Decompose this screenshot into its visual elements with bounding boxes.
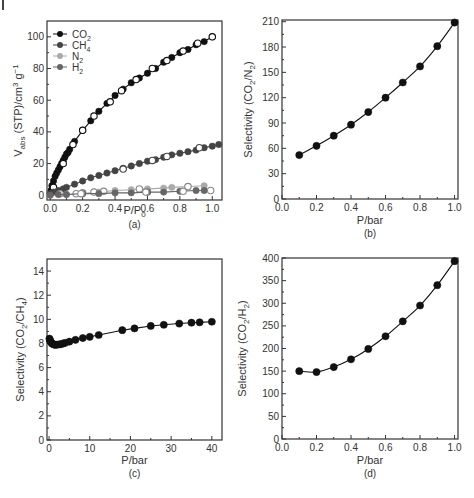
data-point (143, 189, 149, 195)
data-point (79, 334, 86, 341)
legend-label-main: N (72, 51, 79, 62)
data-point (128, 190, 134, 196)
y-axis-label: Selectivity (CO2/H2) (236, 300, 251, 396)
data-point (107, 99, 113, 105)
data-point (47, 192, 53, 198)
y-tick-label: 120 (262, 92, 279, 103)
data-point (296, 368, 303, 375)
series-line (299, 23, 454, 156)
data-point (193, 187, 199, 193)
data-point (95, 331, 102, 338)
y-tick-label: 0 (38, 190, 44, 201)
plot-frame (47, 259, 222, 440)
data-point (164, 153, 170, 159)
data-point (86, 333, 93, 340)
data-point (434, 43, 441, 50)
data-point (169, 184, 175, 190)
x-tick-label: 0.8 (173, 203, 187, 214)
y-axis-label-part: /H (236, 308, 248, 319)
y-tick-label: 150 (262, 366, 279, 377)
data-point (365, 108, 372, 115)
y-axis-label-part: /N (242, 69, 254, 80)
y-axis-label-part: g (12, 73, 24, 82)
data-point (451, 19, 458, 26)
x-tick-label: 0.8 (413, 202, 427, 213)
y-axis-label-part: ) (242, 61, 254, 65)
data-point (112, 190, 118, 196)
y-tick-label: 100 (27, 31, 44, 42)
x-tick-label: 0.6 (379, 442, 393, 453)
series-line (299, 261, 454, 372)
y-tick-label: 0 (38, 435, 44, 446)
x-tick-label: 0.2 (310, 442, 324, 453)
data-point (176, 320, 183, 327)
data-point (119, 327, 126, 334)
y-tick-label: 30 (268, 168, 280, 179)
data-point (149, 157, 155, 163)
data-point (196, 145, 202, 151)
data-point (147, 322, 154, 329)
data-point (416, 302, 423, 309)
data-point (382, 333, 389, 340)
data-point (180, 188, 186, 194)
y-axis-label-part: abs (18, 137, 27, 150)
data-point (296, 151, 303, 158)
x-axis-label: P/bar (357, 214, 384, 226)
y-tick-label: 210 (262, 16, 279, 27)
y-tick-label: 100 (262, 388, 279, 399)
x-tick-label: 40 (206, 443, 218, 454)
x-tick-label: 1.0 (205, 203, 219, 214)
data-point (313, 142, 320, 149)
y-axis-label-part: −1 (11, 64, 20, 74)
data-point (91, 113, 97, 119)
data-point (136, 186, 142, 192)
data-point (160, 321, 167, 328)
y-tick-label: 50 (268, 411, 280, 422)
data-point (88, 175, 94, 181)
y-tick-label: 200 (262, 343, 279, 354)
data-point (160, 189, 166, 195)
x-tick-label: 0.6 (379, 202, 393, 213)
data-point (96, 172, 102, 178)
data-point (347, 121, 354, 128)
legend-label-main: CH (72, 40, 86, 51)
data-point (60, 160, 66, 166)
data-point (71, 181, 77, 187)
x-tick-label: 0.4 (108, 203, 122, 214)
data-point (416, 63, 423, 70)
data-series (296, 258, 458, 376)
data-point (201, 187, 207, 193)
data-point (177, 150, 183, 156)
data-point (188, 319, 195, 326)
y-axis-label-part: Selectivity (CO (242, 84, 254, 157)
data-point (209, 143, 215, 149)
y-tick-label: 60 (268, 143, 280, 154)
x-axis-label: P/bar (121, 454, 148, 466)
y-axis-label-part: Selectivity (CO (14, 328, 26, 401)
chart-panel-b-selectivity-co2-n2: 0.00.20.40.60.81.00306090120150180210P/b… (242, 16, 462, 239)
y-axis-label-part: (STP)/cm (12, 87, 24, 137)
data-point (434, 282, 441, 289)
legend-marker (57, 31, 63, 37)
x-axis-label-main: P/P (123, 204, 141, 216)
y-tick-label: 20 (33, 158, 45, 169)
data-point (164, 57, 170, 63)
x-tick-label: 0 (46, 443, 52, 454)
data-point (118, 87, 124, 93)
y-tick-label: 300 (262, 298, 279, 309)
data-point (451, 258, 458, 265)
y-tick-label: 250 (262, 320, 279, 331)
figure-canvas: 0.00.20.40.60.81.0020406080100P/P0Vabs (… (0, 0, 474, 498)
y-tick-label: 12 (33, 290, 45, 301)
x-tick-label: 1.0 (448, 202, 462, 213)
legend-marker (57, 53, 63, 59)
y-tick-label: 80 (33, 63, 45, 74)
x-tick-label: 1.0 (448, 442, 462, 453)
data-point (96, 190, 102, 196)
data-point (133, 76, 139, 82)
data-point (70, 141, 76, 147)
data-point (330, 132, 337, 139)
data-point (149, 65, 155, 71)
y-axis-label: Vabs (STP)/cm3 g−1 (11, 64, 27, 157)
x-tick-label: 0.8 (413, 442, 427, 453)
